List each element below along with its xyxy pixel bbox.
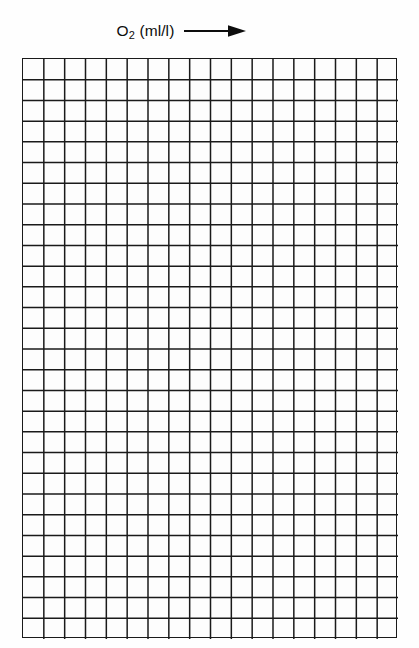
axis-caption-subscript: 2	[129, 29, 135, 41]
x-axis-caption: O2 (ml/l)	[0, 14, 419, 48]
axis-caption-text: O2 (ml/l)	[117, 23, 175, 39]
chart-page: O2 (ml/l)	[0, 0, 419, 648]
axis-caption-label: O	[117, 22, 129, 39]
axis-caption-unit: (ml/l)	[135, 22, 174, 39]
right-arrow-icon	[184, 24, 246, 38]
grid-lines	[23, 59, 398, 639]
caption-inner: O2 (ml/l)	[117, 23, 247, 39]
plot-grid	[22, 58, 397, 638]
